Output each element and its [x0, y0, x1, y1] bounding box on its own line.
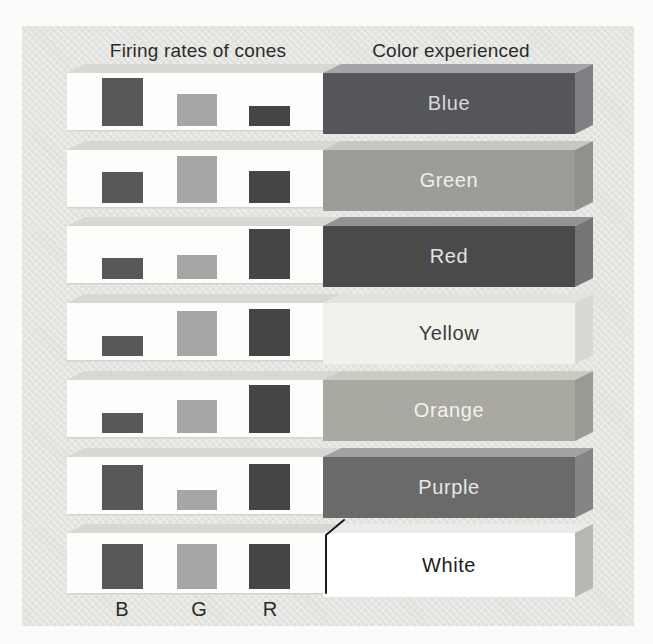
bar-r-cone: [249, 464, 290, 510]
header-color-experienced: Color experienced: [372, 40, 530, 62]
bar-r-cone: [249, 309, 290, 356]
bar-g-cone: [177, 490, 217, 510]
color-block-side-face: [575, 217, 593, 287]
cone-label-g: G: [191, 598, 207, 621]
bar-g-cone: [177, 400, 217, 433]
header-firing-rates: Firing rates of cones: [110, 40, 286, 62]
bar-g-cone: [177, 255, 217, 279]
bar-g-cone: [177, 94, 217, 126]
bar-r-cone: [249, 385, 290, 433]
strip-bottom-edge: [67, 283, 323, 285]
bar-g-cone: [177, 544, 217, 589]
bar-g-cone: [177, 156, 217, 203]
cone-label-r: R: [263, 598, 277, 621]
bar-b-cone: [102, 78, 143, 126]
color-block-top-face: [323, 294, 593, 303]
color-experienced-label: Green: [323, 150, 575, 211]
bar-b-cone: [102, 465, 143, 510]
color-experienced-label: Red: [323, 226, 575, 287]
strip-top-face: [67, 524, 341, 533]
bar-r-cone: [249, 544, 290, 589]
color-block-top-face: [323, 217, 593, 226]
color-block-top-face: [323, 141, 593, 150]
color-block-top-face: [323, 371, 593, 380]
strip-top-face: [67, 294, 341, 303]
bar-b-cone: [102, 413, 143, 433]
color-block-side-face: [575, 371, 593, 441]
bar-b-cone: [102, 544, 143, 589]
color-block-top-face: [323, 524, 593, 533]
strip-bottom-edge: [67, 130, 323, 132]
color-experienced-label: Blue: [323, 73, 575, 134]
color-experienced-label: Yellow: [323, 303, 575, 364]
bar-b-cone: [102, 258, 143, 279]
color-block-side-face: [575, 141, 593, 211]
strip-top-face: [67, 141, 341, 150]
bar-r-cone: [249, 229, 290, 279]
strip-bottom-edge: [67, 514, 323, 516]
bar-b-cone: [102, 336, 143, 356]
bar-g-cone: [177, 311, 217, 356]
color-block-top-face: [323, 64, 593, 73]
strip-top-face: [67, 448, 341, 457]
strip-top-face: [67, 64, 341, 73]
cone-label-b: B: [115, 598, 128, 621]
strip-top-face: [67, 217, 341, 226]
color-experienced-label: Orange: [323, 380, 575, 441]
bar-r-cone: [249, 106, 290, 126]
color-block-side-face: [575, 64, 593, 134]
strip-bottom-edge: [67, 437, 323, 439]
strip-bottom-edge: [67, 207, 323, 209]
bar-r-cone: [249, 171, 290, 203]
figure-canvas: Firing rates of cones Color experienced …: [0, 0, 653, 644]
color-experienced-label: White: [323, 533, 575, 597]
color-block-side-face: [575, 448, 593, 518]
bar-b-cone: [102, 172, 143, 203]
strip-bottom-edge: [67, 593, 323, 595]
strip-top-face: [67, 371, 341, 380]
color-block-top-face: [323, 448, 593, 457]
strip-bottom-edge: [67, 360, 323, 362]
color-block-side-face: [575, 524, 593, 597]
color-block-side-face: [575, 294, 593, 364]
color-experienced-label: Purple: [323, 457, 575, 518]
